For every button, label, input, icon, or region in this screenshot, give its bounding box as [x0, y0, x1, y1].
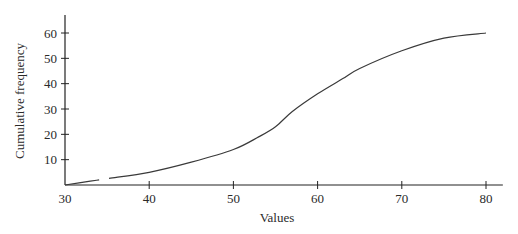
y-tick-label: 30: [44, 102, 57, 117]
x-tick-label: 40: [143, 191, 156, 206]
x-tick-label: 30: [59, 191, 72, 206]
y-axis-label: Cumulative frequency: [12, 43, 27, 159]
x-tick-label: 70: [395, 191, 408, 206]
y-tick-label: 20: [44, 127, 57, 142]
ticks: 304050607080102030405060: [44, 26, 493, 207]
axes: [65, 15, 503, 185]
cumulative-frequency-chart: 304050607080102030405060 Values Cumulati…: [0, 0, 518, 234]
y-tick-label: 60: [44, 26, 57, 41]
x-tick-label: 50: [227, 191, 240, 206]
x-axis-label: Values: [260, 210, 295, 225]
y-tick-label: 40: [44, 76, 57, 91]
y-tick-label: 50: [44, 51, 57, 66]
x-tick-label: 60: [311, 191, 324, 206]
x-tick-label: 80: [480, 191, 493, 206]
ogive-curve: [65, 33, 486, 185]
y-tick-label: 10: [44, 152, 57, 167]
